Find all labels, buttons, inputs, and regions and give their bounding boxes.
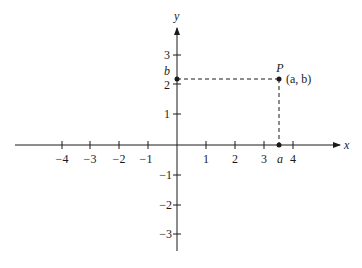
svg-text:−1: −1 [159, 168, 172, 182]
svg-text:1: 1 [164, 107, 170, 121]
x-axis-label: x [343, 138, 350, 152]
point-P-label: P [275, 61, 284, 75]
point-a [277, 143, 282, 148]
svg-text:−2: −2 [159, 198, 172, 212]
y-projection-label: b [164, 64, 170, 78]
svg-text:−4: −4 [56, 152, 69, 166]
x-projection-label: a [277, 152, 283, 166]
svg-text:−2: −2 [113, 152, 126, 166]
point-b [175, 77, 180, 82]
x-tick-labels: −4 −3 −2 −1 1 2 3 4 [56, 152, 296, 166]
svg-text:−3: −3 [159, 227, 172, 241]
point-P [277, 77, 282, 82]
svg-text:2: 2 [164, 78, 170, 92]
svg-text:3: 3 [164, 48, 170, 62]
y-axis-label: y [173, 9, 180, 23]
svg-text:−3: −3 [84, 152, 97, 166]
svg-text:4: 4 [290, 152, 296, 166]
svg-text:2: 2 [232, 152, 238, 166]
svg-text:1: 1 [203, 152, 209, 166]
svg-text:−1: −1 [140, 152, 153, 166]
coordinate-plane: −4 −3 −2 −1 1 2 3 4 3 2 1 −1 −2 −3 x y P… [0, 0, 362, 268]
svg-text:3: 3 [261, 152, 267, 166]
point-P-coords: (a, b) [286, 72, 311, 86]
